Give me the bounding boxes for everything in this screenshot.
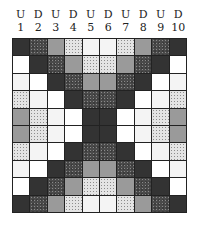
grid-cell-white <box>13 56 29 72</box>
grid-cell-white <box>48 91 64 107</box>
grid-cell-black <box>170 196 186 212</box>
grid-cell-dark-speckled <box>48 178 64 194</box>
grid-cell-dark-speckled <box>135 178 151 194</box>
grid-cell-black <box>117 143 133 159</box>
grid-cell-black <box>83 126 99 142</box>
grid-cell-white <box>135 91 151 107</box>
grid-cell-black <box>170 39 186 55</box>
grid-cell-very-light-speckled <box>30 143 46 159</box>
grid-cell-black <box>100 109 116 125</box>
grid-cell-white <box>117 109 133 125</box>
grid-cell-medium-gray <box>135 39 151 55</box>
grid-cell-medium-gray <box>100 74 116 90</box>
grid-cell-white <box>135 143 151 159</box>
grid-cell-dark-speckled <box>48 56 64 72</box>
grid-cell-medium-gray <box>117 178 133 194</box>
grid-cell-very-light-speckled <box>170 161 186 177</box>
grid-cell-light-speckled <box>100 56 116 72</box>
grid-cell-very-light-speckled <box>48 109 64 125</box>
grid-cell-light-speckled <box>117 39 133 55</box>
column-number: 9 <box>152 22 170 35</box>
grid-cell-white <box>170 178 186 194</box>
column-header: D6 <box>100 9 118 35</box>
column-header: D10 <box>170 9 188 35</box>
grid-cell-black <box>48 161 64 177</box>
grid-cell-medium-gray <box>48 196 64 212</box>
grid-cell-light-speckled <box>83 56 99 72</box>
grid-cell-medium-gray <box>13 109 29 125</box>
grid-cell-dark-speckled <box>65 74 81 90</box>
grid-cell-light-speckled <box>100 178 116 194</box>
grid-cell-dark-speckled <box>152 196 168 212</box>
column-number: 7 <box>117 22 135 35</box>
grid-cell-very-light-speckled <box>152 143 168 159</box>
grid-cell-light-speckled <box>65 39 81 55</box>
grid-cell-white <box>30 161 46 177</box>
grid-cell-dark-speckled <box>100 143 116 159</box>
grid-cell-very-light-speckled <box>135 109 151 125</box>
grid-cell-white <box>152 74 168 90</box>
grid-cell-dark-speckled <box>30 196 46 212</box>
grid-cell-dark-speckled <box>135 56 151 72</box>
column-header: D2 <box>30 9 48 35</box>
grid-cell-medium-gray <box>117 56 133 72</box>
grid-cell-very-light-speckled <box>83 39 99 55</box>
grid-cell-light-speckled <box>170 91 186 107</box>
grid-cell-white <box>117 126 133 142</box>
grid-cell-dark-speckled <box>83 91 99 107</box>
grid-cell-very-light-speckled <box>83 196 99 212</box>
grid-cell-light-speckled <box>170 143 186 159</box>
grid-cell-light-speckled <box>13 143 29 159</box>
grid-cell-light-speckled <box>30 109 46 125</box>
grid-cell-black <box>117 91 133 107</box>
column-header: D4 <box>65 9 83 35</box>
grid-cell-very-light-speckled <box>30 91 46 107</box>
grid-cell-medium-gray <box>170 109 186 125</box>
grid-cell-medium-gray <box>170 126 186 142</box>
grid-cell-very-light-speckled <box>13 161 29 177</box>
grid-cell-medium-gray <box>65 56 81 72</box>
column-number: 4 <box>65 22 83 35</box>
grid-cell-medium-gray <box>83 161 99 177</box>
grid-cell-medium-gray <box>13 126 29 142</box>
grid-cell-black <box>48 74 64 90</box>
grid-cell-medium-gray <box>135 196 151 212</box>
grid-cell-dark-speckled <box>152 39 168 55</box>
column-number: 3 <box>47 22 65 35</box>
column-number: 10 <box>170 22 188 35</box>
grid-cell-very-light-speckled <box>100 39 116 55</box>
grid-cell-light-speckled <box>117 196 133 212</box>
grid-cell-very-light-speckled <box>13 74 29 90</box>
grid-cell-black <box>30 56 46 72</box>
column-header: D8 <box>135 9 153 35</box>
grid-cell-light-speckled <box>83 178 99 194</box>
grid-cell-black <box>65 91 81 107</box>
grid-cell-black <box>135 74 151 90</box>
grid-cell-light-speckled <box>152 126 168 142</box>
grid-cell-white <box>65 126 81 142</box>
grid-cell-medium-gray <box>65 178 81 194</box>
grid-cell-dark-speckled <box>30 39 46 55</box>
grid-cell-very-light-speckled <box>135 126 151 142</box>
column-header: U5 <box>82 9 100 35</box>
grid-cell-black <box>152 56 168 72</box>
column-header: U9 <box>152 9 170 35</box>
column-number: 6 <box>100 22 118 35</box>
grid-cell-white <box>170 56 186 72</box>
grid-cell-dark-speckled <box>117 74 133 90</box>
column-number: 1 <box>12 22 30 35</box>
grid-cell-very-light-speckled <box>170 74 186 90</box>
grid-cell-dark-speckled <box>117 161 133 177</box>
column-header: U3 <box>47 9 65 35</box>
grid-cell-dark-speckled <box>100 91 116 107</box>
grid-cell-light-speckled <box>13 91 29 107</box>
grid-cell-black <box>13 196 29 212</box>
grid-cell-black <box>100 126 116 142</box>
grid-cell-white <box>152 161 168 177</box>
grid-cell-black <box>152 178 168 194</box>
grid-cell-very-light-speckled <box>152 91 168 107</box>
grid-cell-black <box>65 143 81 159</box>
column-number: 2 <box>30 22 48 35</box>
column-headers: U1 D2 U3 D4 U5 D6 U7 D8 U9 D10 <box>12 9 187 35</box>
grid-cell-black <box>30 178 46 194</box>
